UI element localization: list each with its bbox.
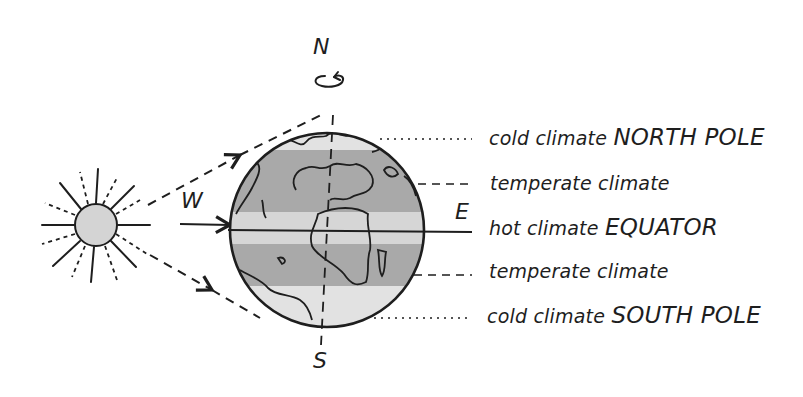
sun-icon	[42, 169, 150, 282]
zone-label-north-temperate: temperate climate	[490, 174, 670, 193]
climate-diagram	[0, 0, 803, 397]
zone-label-equator: hot climate EQUATOR	[489, 216, 718, 239]
zone-label-north-pole: cold climate NORTH POLE	[489, 126, 765, 149]
zone-label-south-temperate: temperate climate	[489, 262, 669, 281]
rotation-arrow-icon	[316, 72, 344, 87]
zone-name: SOUTH POLE	[611, 302, 761, 328]
west-label: W	[181, 190, 203, 212]
zone-name: EQUATOR	[605, 214, 718, 240]
north-label: N	[313, 36, 329, 58]
zone-label-south-pole: cold climate SOUTH POLE	[487, 304, 761, 327]
zone-prefix: cold climate	[487, 305, 605, 327]
zone-name: NORTH POLE	[613, 124, 764, 150]
zone-prefix: hot climate	[489, 217, 599, 239]
zone-prefix: cold climate	[489, 127, 607, 149]
east-label: E	[455, 201, 469, 223]
zone-prefix: temperate climate	[490, 172, 670, 194]
south-label: S	[313, 350, 327, 372]
zone-prefix: temperate climate	[489, 260, 669, 282]
earth-globe	[220, 120, 440, 336]
